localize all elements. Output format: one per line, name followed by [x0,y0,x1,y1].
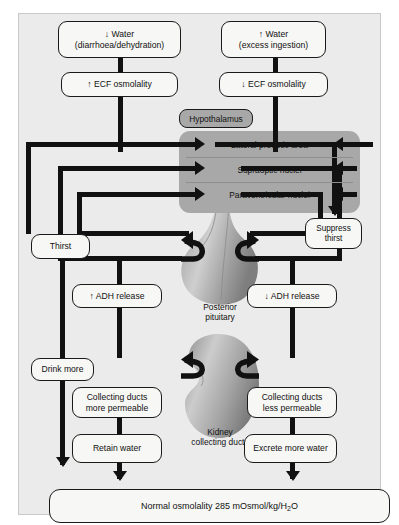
connector-left-rail3-to-pituitary-top [77,231,189,236]
hook-arrow-kidney-left [179,342,213,382]
decreased-ecf-osmolality-label: ↓ ECF osmolality [241,79,305,90]
diagram-frame: Posterior pituitary Kidney collecting du… [18,13,381,515]
thirst-label: Thirst [50,241,71,252]
hypothalamus-row-paraventricular-nuclei: Paraventricular nuclei [184,182,355,207]
increased-adh-release-label: ↑ ADH release [90,291,145,302]
increased-water-line2: (excess ingestion) [239,40,308,50]
hook-arrow-kidney-right [227,342,261,382]
connector-ducts-left-to-retain [117,418,122,434]
suppress-thirst-line1: Suppress [316,224,351,233]
connector-left-rail3 [77,192,82,236]
connector-hypo-out-left-top [26,142,181,147]
pituitary-caption-line1: Posterior [203,302,237,312]
node-normal-osmolality-result[interactable]: Normal osmolality 285 mOsmol/kg/H2O [49,489,390,523]
node-collecting-ducts-less-permeable[interactable]: Collecting ducts less permeable [247,387,337,418]
connector-right-stimulus-to-ecf [273,58,278,72]
result-subscript: 2 [287,505,291,512]
hypothalamus-row-lateral-preoptic-area: Lateral preoptic area [184,132,355,157]
node-decreased-adh-release[interactable]: ↓ ADH release [247,284,337,308]
node-increased-adh-release[interactable]: ↑ ADH release [72,284,162,308]
node-collecting-ducts-more-permeable[interactable]: Collecting ducts more permeable [72,387,162,418]
connector-adh-left-to-kidney [117,308,122,358]
connector-pituitary-to-adh-right [290,256,295,284]
arrowhead-retain-to-result [113,471,127,481]
node-increased-water[interactable]: ↑ Water (excess ingestion) [221,21,326,58]
hook-arrow-pituitary-right [227,217,261,265]
node-decreased-ecf-osmolality[interactable]: ↓ ECF osmolality [219,72,328,97]
node-drink-more[interactable]: Drink more [31,358,94,381]
ducts-less-permeable-line1: Collecting ducts [262,392,323,402]
connector-pituitary-to-adh-left [117,256,122,284]
hypothalamus-row-supraoptic-nuclei: Supraoptic nuclei [184,157,355,182]
hypothalamus-row-label: Paraventricular nuclei [229,190,310,200]
node-retain-water[interactable]: Retain water [72,434,162,463]
decreased-adh-release-label: ↓ ADH release [265,291,320,302]
connector-hypo-out-left-mid [58,166,181,171]
connector-ducts-right-to-excrete [290,418,295,434]
node-thirst[interactable]: Thirst [31,234,90,259]
ducts-more-permeable-line1: Collecting ducts [87,392,148,402]
node-suppress-thirst[interactable]: Suppress thirst [305,218,362,249]
node-increased-ecf-osmolality[interactable]: ↑ ECF osmolality [61,72,178,97]
hypothalamus-row-label: Supraoptic nuclei [237,165,301,175]
hook-arrow-pituitary-left [179,217,213,265]
increased-water-line1: ↑ Water [259,29,288,39]
increased-ecf-osmolality-label: ↑ ECF osmolality [87,79,151,90]
node-excrete-more-water[interactable]: Excrete more water [244,434,337,463]
connector-drink-to-result [60,381,65,465]
decreased-water-line2: (diarrhoea/dehydration) [75,40,164,50]
arrowhead-suppress-thirst [328,206,342,216]
connector-hypo-out-left-low [77,192,181,197]
hypothalamus-row-label: Lateral preoptic area [231,140,308,150]
connector-adh-right-to-ducts [290,308,295,358]
pituitary-caption-line2: pituitary [205,312,234,322]
arrowhead-drink-to-result [56,457,70,467]
connector-left-rail-to-thirst [26,142,31,234]
decreased-water-line1: ↓ Water [105,29,134,39]
kidney-caption-line2: collecting ducts [191,437,248,447]
connector-right-rail2-to-pituitary [255,256,342,261]
ducts-more-permeable-line2: more permeable [86,403,149,413]
suppress-thirst-line2: thirst [325,234,343,243]
result-text-after: O [291,501,298,511]
excrete-more-water-label: Excrete more water [253,443,328,454]
drink-more-label: Drink more [41,364,83,375]
node-decreased-water[interactable]: ↓ Water (diarrhoea/dehydration) [58,21,181,58]
ducts-less-permeable-line2: less permeable [263,403,321,413]
connector-left-stimulus-to-ecf [118,58,123,72]
arrowhead-excrete-to-result [286,471,300,481]
hypothalamus-label-text: Hypothalamus [189,114,243,124]
result-text-before: Normal osmolality 285 mOsmol/kg/H [141,501,287,511]
retain-water-label: Retain water [93,443,141,454]
kidney-caption-line1: Kidney [207,427,233,437]
hypothalamus-label: Hypothalamus [179,109,253,128]
